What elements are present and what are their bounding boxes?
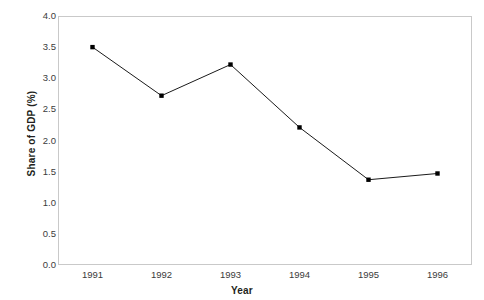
data-point	[366, 178, 370, 182]
data-point	[90, 45, 94, 49]
data-point	[228, 62, 232, 66]
series-layer	[0, 0, 484, 300]
x-axis-title: Year	[0, 285, 484, 296]
series-line	[93, 47, 438, 180]
y-axis-title: Share of GDP (%)	[26, 54, 37, 214]
line-chart: 0.00.51.01.52.02.53.03.54.0 199119921993…	[0, 0, 484, 300]
data-point	[435, 171, 439, 175]
data-point	[159, 93, 163, 97]
data-point	[297, 125, 301, 129]
series-markers	[90, 45, 439, 182]
